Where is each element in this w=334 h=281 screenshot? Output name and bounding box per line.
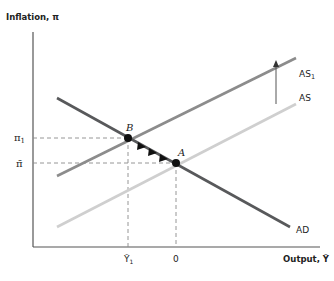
point-a-label: A [177, 147, 185, 158]
ad-as-diagram: Inflation, π Output, Ỹ B A AS1 AS AD π1 … [0, 0, 334, 281]
pi1-tick-label: π1 [14, 132, 25, 145]
shift-arrow-head-icon [273, 60, 279, 67]
y1-tick-label: Ỹ1 [123, 254, 134, 265]
as1-label: AS1 [299, 69, 315, 81]
point-b-label: B [125, 122, 133, 133]
x-axis-label: Output, Ỹ [283, 254, 330, 264]
point-a [172, 159, 180, 167]
point-b [124, 134, 132, 142]
zero-tick-label: 0 [173, 254, 179, 264]
as-label: AS [299, 93, 311, 103]
ad-label: AD [296, 225, 309, 235]
pibar-tick-label: π̄ [16, 158, 23, 169]
y-axis-label: Inflation, π [6, 12, 59, 22]
